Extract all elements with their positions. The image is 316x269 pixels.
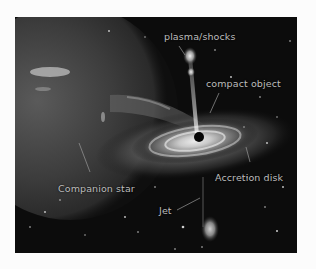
compact-object: [194, 132, 204, 142]
label-accretion-disk: Accretion disk: [215, 172, 283, 183]
label-compact-object: compact object: [206, 78, 281, 89]
label-plasma-shocks: plasma/shocks: [164, 31, 235, 42]
space-illustration: [15, 17, 297, 253]
diagram-image: plasma/shocks compact object Accretion d…: [15, 17, 297, 253]
label-companion-star: Companion star: [58, 183, 135, 194]
label-jet: Jet: [159, 205, 172, 216]
